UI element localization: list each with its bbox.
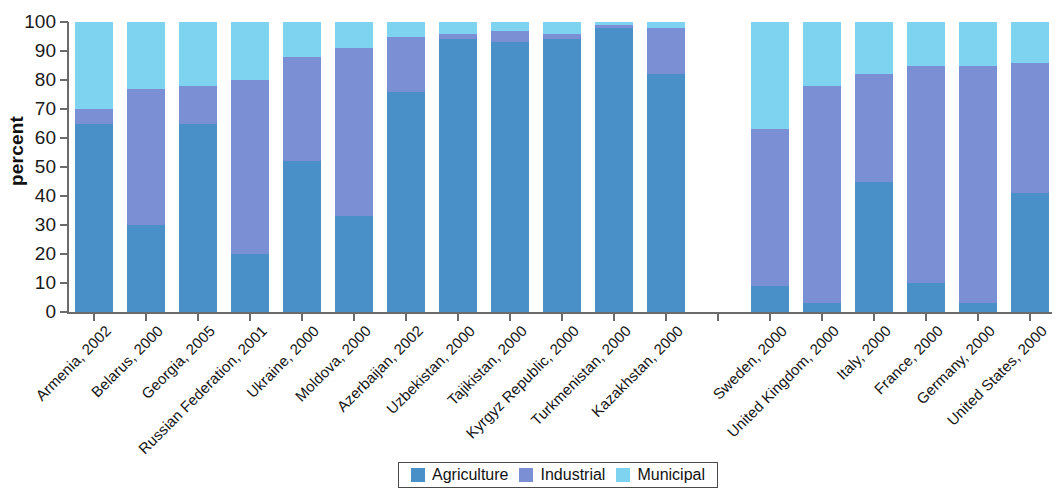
bar-segment-industrial[interactable]: [595, 25, 633, 28]
bar-stack[interactable]: [439, 22, 477, 312]
y-axis-tick: [60, 137, 68, 139]
bar-segment-municipal[interactable]: [959, 22, 997, 66]
bar-segment-agriculture[interactable]: [179, 124, 217, 313]
x-axis-tick: [821, 313, 823, 321]
bar-stack[interactable]: [335, 22, 373, 312]
bar-segment-industrial[interactable]: [647, 28, 685, 74]
bar-stack[interactable]: [543, 22, 581, 312]
x-axis-tick: [93, 313, 95, 321]
bar-stack[interactable]: [751, 22, 789, 312]
legend-item[interactable]: Industrial: [519, 466, 605, 484]
x-axis-tick: [353, 313, 355, 321]
bar-stack[interactable]: [855, 22, 893, 312]
bar-segment-industrial[interactable]: [491, 31, 529, 43]
bar-segment-industrial[interactable]: [283, 57, 321, 161]
bar-segment-industrial[interactable]: [907, 66, 945, 284]
bar-segment-industrial[interactable]: [439, 34, 477, 40]
bar-segment-municipal[interactable]: [595, 22, 633, 25]
bar-segment-municipal[interactable]: [387, 22, 425, 37]
bar-segment-municipal[interactable]: [75, 22, 113, 109]
x-axis-category-label: Kazakhstan, 2000: [588, 322, 686, 420]
bar-stack[interactable]: [959, 22, 997, 312]
bar-segment-industrial[interactable]: [543, 34, 581, 40]
bar-segment-industrial[interactable]: [803, 86, 841, 304]
legend-item[interactable]: Agriculture: [411, 466, 508, 484]
y-axis-tick: [60, 195, 68, 197]
bar-segment-industrial[interactable]: [179, 86, 217, 124]
bar-stack[interactable]: [231, 22, 269, 312]
bar-stack[interactable]: [283, 22, 321, 312]
bar-stack[interactable]: [907, 22, 945, 312]
bar-segment-agriculture[interactable]: [231, 254, 269, 312]
bar-segment-municipal[interactable]: [439, 22, 477, 34]
bar-segment-municipal[interactable]: [491, 22, 529, 31]
bar-segment-agriculture[interactable]: [283, 161, 321, 312]
y-axis-tick-label: 60: [10, 127, 56, 149]
bar-segment-agriculture[interactable]: [491, 42, 529, 312]
x-axis-tick: [301, 313, 303, 321]
bar-segment-industrial[interactable]: [75, 109, 113, 124]
bar-segment-agriculture[interactable]: [595, 28, 633, 312]
bar-segment-industrial[interactable]: [127, 89, 165, 225]
bar-segment-industrial[interactable]: [387, 37, 425, 92]
bar-segment-agriculture[interactable]: [335, 216, 373, 312]
y-axis-tick-label: 70: [10, 98, 56, 120]
y-axis-tick: [60, 282, 68, 284]
bar-segment-municipal[interactable]: [647, 22, 685, 28]
x-axis-tick: [457, 313, 459, 321]
bar-segment-municipal[interactable]: [1011, 22, 1049, 63]
y-axis-tick-label: 10: [10, 272, 56, 294]
bar-segment-municipal[interactable]: [127, 22, 165, 89]
x-axis-tick: [1029, 313, 1031, 321]
y-axis-tick-label: 40: [10, 185, 56, 207]
bar-segment-industrial[interactable]: [231, 80, 269, 254]
bar-segment-agriculture[interactable]: [1011, 193, 1049, 312]
bar-segment-agriculture[interactable]: [907, 283, 945, 312]
bar-stack[interactable]: [387, 22, 425, 312]
bar-stack[interactable]: [127, 22, 165, 312]
bar-segment-agriculture[interactable]: [75, 124, 113, 313]
bar-segment-municipal[interactable]: [803, 22, 841, 86]
x-axis-tick: [873, 313, 875, 321]
bar-segment-agriculture[interactable]: [387, 92, 425, 312]
bar-segment-agriculture[interactable]: [751, 286, 789, 312]
bar-segment-municipal[interactable]: [179, 22, 217, 86]
bar-stack[interactable]: [803, 22, 841, 312]
bar-stack[interactable]: [491, 22, 529, 312]
bar-segment-municipal[interactable]: [907, 22, 945, 66]
x-axis-tick: [925, 313, 927, 321]
bar-segment-agriculture[interactable]: [855, 182, 893, 313]
bar-stack[interactable]: [595, 22, 633, 312]
bar-segment-municipal[interactable]: [335, 22, 373, 48]
bar-segment-agriculture[interactable]: [803, 303, 841, 312]
bar-segment-agriculture[interactable]: [127, 225, 165, 312]
bar-segment-agriculture[interactable]: [439, 39, 477, 312]
bar-segment-municipal[interactable]: [855, 22, 893, 74]
bar-segment-agriculture[interactable]: [543, 39, 581, 312]
bar-segment-agriculture[interactable]: [647, 74, 685, 312]
bar-segment-industrial[interactable]: [959, 66, 997, 304]
bar-stack[interactable]: [647, 22, 685, 312]
x-axis-tick: [977, 313, 979, 321]
bar-stack[interactable]: [75, 22, 113, 312]
x-axis-tick: [249, 313, 251, 321]
y-axis-tick: [60, 21, 68, 23]
bar-segment-industrial[interactable]: [1011, 63, 1049, 194]
bar-segment-industrial[interactable]: [335, 48, 373, 216]
bar-segment-industrial[interactable]: [751, 129, 789, 286]
x-axis-tick: [613, 313, 615, 321]
bar-segment-municipal[interactable]: [231, 22, 269, 80]
bar-segment-agriculture[interactable]: [959, 303, 997, 312]
bar-stack[interactable]: [179, 22, 217, 312]
bar-stack[interactable]: [1011, 22, 1049, 312]
bar-segment-municipal[interactable]: [283, 22, 321, 57]
y-axis-tick-label: 80: [10, 69, 56, 91]
bar-segment-municipal[interactable]: [751, 22, 789, 129]
legend-item[interactable]: Municipal: [616, 466, 705, 484]
x-axis-tick: [197, 313, 199, 321]
x-axis-category-label: Uzbekistan, 2000: [383, 322, 478, 417]
bar-segment-municipal[interactable]: [543, 22, 581, 34]
y-axis-tick: [60, 224, 68, 226]
bar-segment-industrial[interactable]: [855, 74, 893, 181]
chart-legend: AgricultureIndustrialMunicipal: [398, 462, 718, 488]
